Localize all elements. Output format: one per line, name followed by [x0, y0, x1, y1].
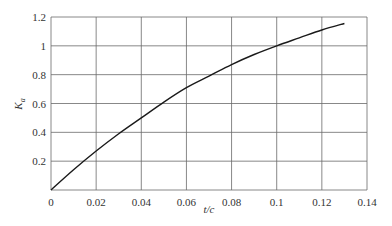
- grid: [51, 17, 367, 190]
- x-tick-label: 0.08: [222, 196, 242, 208]
- x-tick-label: 0.12: [312, 196, 331, 208]
- x-axis-label: t/c: [204, 203, 215, 215]
- y-tick-label: 0.8: [32, 69, 46, 81]
- x-tick-label: 0: [48, 196, 54, 208]
- y-tick-label: 0.4: [32, 126, 46, 138]
- line-chart: 00.020.040.060.080.10.120.14 0.20.40.60.…: [0, 0, 392, 226]
- x-tick-label: 0.14: [357, 196, 377, 208]
- x-tick-label: 0.06: [177, 196, 197, 208]
- y-tick-label: 0.6: [32, 98, 46, 110]
- y-tick-label: 1.2: [32, 11, 46, 23]
- data-series: [51, 23, 344, 190]
- y-axis-ticks: 0.20.40.60.811.2: [32, 11, 46, 167]
- y-tick-label: 1: [41, 40, 47, 52]
- y-tick-label: 0.2: [32, 155, 46, 167]
- series-line: [51, 23, 344, 190]
- x-tick-label: 0.1: [270, 196, 284, 208]
- y-axis-label: Ka: [12, 98, 27, 110]
- x-tick-label: 0.02: [87, 196, 106, 208]
- x-tick-label: 0.04: [132, 196, 152, 208]
